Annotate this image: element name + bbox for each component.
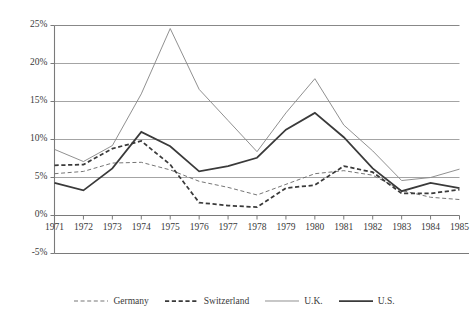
y-axis-tick-label: 15% <box>30 95 47 105</box>
legend-label: Switzerland <box>204 296 249 306</box>
legend-line-swatch <box>74 297 108 305</box>
y-axis-tick-label: 10% <box>30 133 47 143</box>
legend-entry-germany: Germany <box>74 296 148 306</box>
chart-legend: GermanySwitzerlandU.K.U.S. <box>0 296 469 306</box>
y-axis-ticks <box>51 26 55 254</box>
y-axis-tick-label: 20% <box>30 57 47 67</box>
legend-line-swatch <box>339 297 373 305</box>
series-line-germany <box>55 162 460 199</box>
y-axis-tick-label: -5% <box>32 247 48 257</box>
legend-line-swatch <box>265 297 299 305</box>
legend-label: Germany <box>113 296 148 306</box>
gridlines <box>55 26 470 254</box>
legend-label: U.S. <box>378 296 395 306</box>
data-series-lines <box>55 29 460 208</box>
y-axis-tick-label: 0% <box>35 209 48 219</box>
x-axis-tick-label: 1985 <box>440 222 474 232</box>
legend-entry-switzerland: Switzerland <box>165 296 249 306</box>
y-axis-tick-label: 5% <box>35 171 48 181</box>
legend-entry-u-k: U.K. <box>265 296 322 306</box>
y-axis-tick-label: 25% <box>30 19 47 29</box>
legend-line-swatch <box>165 297 199 305</box>
x-axis-ticks <box>55 216 460 220</box>
legend-label: U.K. <box>304 296 322 306</box>
legend-entry-u-s: U.S. <box>339 296 395 306</box>
